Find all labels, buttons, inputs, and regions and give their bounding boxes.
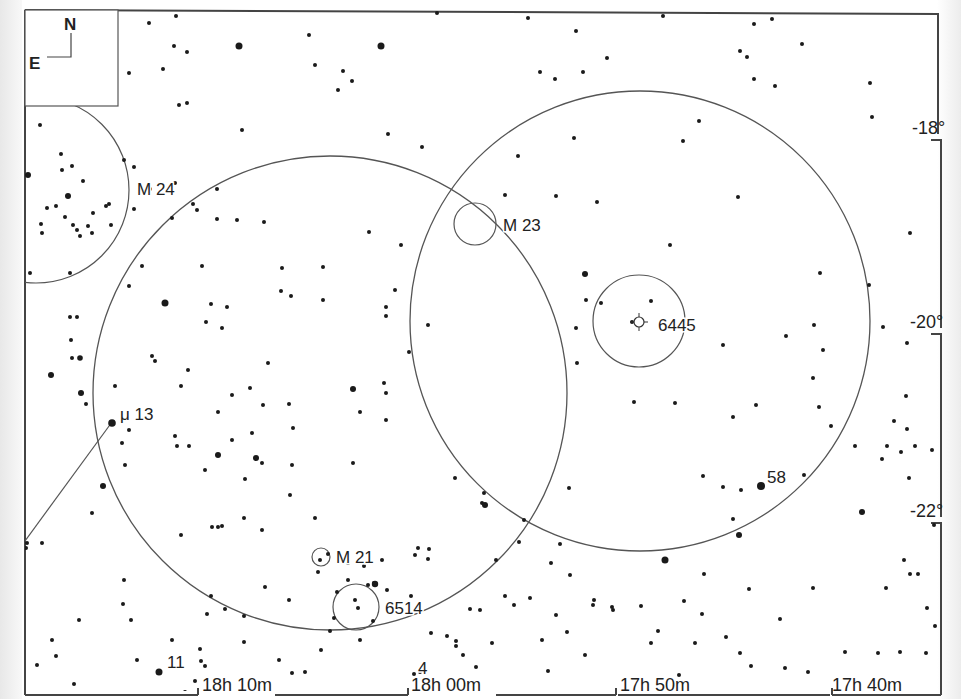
star	[216, 525, 220, 529]
star	[248, 386, 252, 390]
star	[554, 194, 558, 198]
star	[572, 136, 576, 140]
star	[407, 350, 411, 354]
star	[59, 152, 63, 156]
star	[494, 558, 498, 562]
star	[90, 511, 94, 515]
star	[924, 651, 928, 655]
star	[290, 463, 294, 467]
star	[279, 289, 283, 293]
star	[108, 419, 116, 427]
star	[526, 16, 530, 20]
star	[778, 617, 782, 621]
star	[880, 457, 884, 461]
star	[752, 77, 756, 81]
star	[39, 222, 43, 226]
star	[399, 243, 403, 247]
star	[127, 284, 131, 288]
dec-label: -22°	[910, 501, 943, 521]
star	[784, 334, 788, 338]
star	[904, 394, 908, 398]
star	[745, 55, 749, 59]
star	[263, 585, 267, 589]
star	[925, 606, 929, 610]
star	[303, 670, 307, 674]
star	[91, 211, 95, 215]
star	[150, 354, 154, 358]
star	[512, 603, 516, 607]
star	[565, 630, 569, 634]
star	[346, 578, 350, 582]
star	[230, 393, 234, 397]
star	[429, 631, 433, 635]
star	[371, 619, 375, 623]
star	[289, 294, 293, 298]
star	[215, 187, 219, 191]
star	[318, 558, 322, 562]
star	[220, 326, 224, 330]
star	[829, 424, 833, 428]
star	[185, 50, 189, 54]
star	[109, 223, 113, 227]
star	[366, 583, 370, 587]
star	[528, 596, 532, 600]
star	[242, 516, 246, 520]
star	[77, 355, 83, 361]
star	[210, 525, 214, 529]
star	[358, 410, 362, 414]
compass-east: E	[29, 54, 40, 73]
star	[81, 179, 85, 183]
star	[905, 427, 909, 431]
star	[811, 376, 815, 380]
star	[253, 455, 259, 461]
star	[812, 323, 816, 327]
star	[908, 231, 912, 235]
star	[321, 265, 325, 269]
star	[853, 444, 857, 448]
star	[72, 682, 76, 686]
star	[821, 348, 825, 352]
star	[225, 305, 229, 309]
star	[204, 320, 208, 324]
star	[806, 670, 810, 674]
star	[261, 403, 265, 407]
star	[121, 602, 125, 606]
star	[183, 690, 187, 694]
star	[503, 193, 507, 197]
star	[75, 228, 79, 232]
star	[147, 21, 151, 25]
star	[876, 651, 880, 655]
star	[187, 444, 191, 448]
star	[70, 164, 74, 168]
star	[280, 266, 284, 270]
star	[574, 29, 578, 33]
star	[372, 581, 378, 587]
star	[70, 356, 74, 360]
star	[899, 450, 903, 454]
star	[724, 635, 728, 639]
star	[881, 325, 885, 329]
star	[386, 132, 390, 136]
star	[123, 463, 127, 467]
star	[209, 594, 213, 598]
star	[584, 298, 588, 302]
star	[316, 570, 320, 574]
star	[107, 202, 111, 206]
star	[38, 123, 42, 127]
star	[200, 264, 204, 268]
star	[78, 234, 82, 238]
star	[546, 669, 550, 673]
star	[353, 598, 357, 602]
star	[592, 598, 596, 602]
star	[738, 49, 742, 53]
star	[215, 452, 221, 458]
star	[203, 664, 207, 668]
star	[135, 658, 139, 662]
star	[40, 541, 44, 545]
star	[336, 88, 340, 92]
star	[177, 103, 181, 107]
star	[426, 557, 430, 561]
star	[426, 323, 430, 327]
star	[393, 288, 397, 292]
star	[172, 44, 176, 48]
